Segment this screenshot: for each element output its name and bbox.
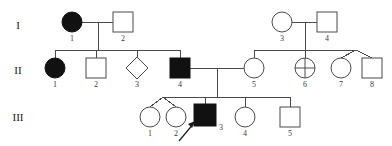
pedigree-canvas: I II III xyxy=(0,0,392,146)
individual-III-2-unaffected-female[interactable] xyxy=(166,107,186,127)
individual-III-2-id: 2 xyxy=(174,129,178,138)
individual-I-1-affected-female[interactable] xyxy=(62,12,82,32)
individual-II-6-id: 6 xyxy=(303,80,307,89)
generation-label-III: III xyxy=(13,111,24,123)
individual-III-4-id: 4 xyxy=(243,129,247,138)
individual-III-3-id: 3 xyxy=(219,123,223,132)
individual-II-3-id: 3 xyxy=(135,80,139,89)
individual-I-4-id: 4 xyxy=(325,34,329,43)
twin-branch-III-2 xyxy=(163,97,176,107)
individual-III-1-id: 1 xyxy=(148,129,152,138)
twin-branch-II-7 xyxy=(341,50,356,58)
individual-II-4-affected-male[interactable] xyxy=(170,58,190,78)
generation-III-symbols: 1 2 3 4 5 xyxy=(140,104,300,138)
individual-I-3-unaffected-female[interactable] xyxy=(272,12,292,32)
individual-III-5-id: 5 xyxy=(288,129,292,138)
individual-II-5-unaffected-female[interactable] xyxy=(244,58,264,78)
individual-II-5-id: 5 xyxy=(252,80,256,89)
individual-II-2-unaffected-male[interactable] xyxy=(86,58,106,78)
individual-II-7-unaffected-female[interactable] xyxy=(331,58,351,78)
individual-I-2-id: 2 xyxy=(121,34,125,43)
generation-label-group: I II III xyxy=(13,19,24,123)
twin-branch-III-1 xyxy=(150,97,163,107)
individual-I-1-id: 1 xyxy=(70,34,74,43)
individual-III-4-unaffected-female[interactable] xyxy=(235,107,255,127)
individual-III-1-unaffected-female[interactable] xyxy=(140,107,160,127)
individual-I-2-unaffected-male[interactable] xyxy=(113,12,133,32)
individual-II-1-id: 1 xyxy=(53,80,57,89)
twin-branch-II-8 xyxy=(356,50,372,58)
individual-II-7-id: 7 xyxy=(339,80,343,89)
individual-II-8-unaffected-male[interactable] xyxy=(362,58,382,78)
individual-III-5-unaffected-male[interactable] xyxy=(280,107,300,127)
individual-II-2-id: 2 xyxy=(94,80,98,89)
individual-III-3-affected-male-proband[interactable] xyxy=(194,104,216,126)
generation-label-II: II xyxy=(14,64,22,76)
pedigree-chart: I II III xyxy=(0,0,392,146)
individual-I-4-unaffected-male[interactable] xyxy=(317,12,337,32)
individual-II-3-unaffected-unknown-sex[interactable] xyxy=(126,57,148,79)
generation-II-symbols: 1 2 3 4 5 6 7 8 xyxy=(45,57,382,89)
individual-II-1-affected-female[interactable] xyxy=(45,58,65,78)
individual-I-3-id: 3 xyxy=(280,34,284,43)
individual-II-6-carrier-female[interactable] xyxy=(295,58,315,78)
individual-II-8-id: 8 xyxy=(370,80,374,89)
individual-II-4-id: 4 xyxy=(178,80,182,89)
generation-label-I: I xyxy=(16,19,20,31)
generation-I-symbols: 1 2 3 4 xyxy=(62,12,337,43)
